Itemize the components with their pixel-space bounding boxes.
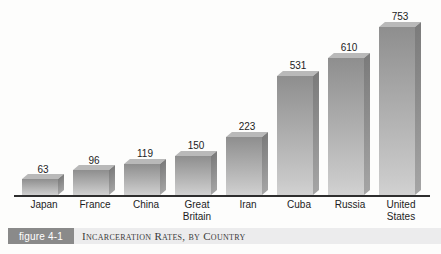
bar-value-china: 119 [124, 148, 166, 159]
figure-number-badge: figure 4-1 [8, 228, 74, 244]
bar-side-face-united-states [415, 22, 421, 195]
bar-russia [328, 58, 364, 195]
axis-label-japan: Japan [18, 199, 70, 211]
figure-caption-bar: Incarceration Rates, by Country [74, 228, 441, 244]
bar-side-face-cuba [313, 71, 319, 195]
bar-france [73, 170, 109, 195]
axis-label-cuba: Cuba [273, 199, 325, 211]
bar-front-face-united-states [379, 27, 415, 195]
axis-label-france: France [69, 199, 121, 211]
figure-caption-text: Incarceration Rates, by Country [82, 230, 246, 242]
figure-container: 63 96 119 1 [0, 0, 441, 254]
bar-value-cuba: 531 [277, 60, 319, 71]
bar-front-face-iran [226, 137, 262, 195]
axis-label-united-states: United States [375, 199, 427, 223]
bar-value-united-states: 753 [379, 11, 421, 22]
bar-front-face-cuba [277, 76, 313, 195]
bar-front-face-france [73, 170, 109, 195]
axis-label-great-britain: Great Britain [171, 199, 223, 223]
bar-front-face-china [124, 164, 160, 195]
bar-side-face-france [109, 165, 115, 195]
bar-great-britain [175, 156, 211, 195]
axis-label-great-britain-line2: Britain [183, 211, 211, 222]
axis-label-russia: Russia [324, 199, 376, 211]
bar-side-face-iran [262, 132, 268, 195]
bar-front-face-great-britain [175, 156, 211, 195]
bar-chart-plot-area: 63 96 119 1 [0, 0, 441, 222]
axis-label-united-states-line2: States [387, 211, 415, 222]
bar-side-face-russia [364, 53, 370, 195]
bar-side-face-great-britain [211, 151, 217, 195]
axis-label-great-britain-line1: Great [184, 199, 209, 210]
figure-caption-row: figure 4-1 Incarceration Rates, by Count… [0, 228, 441, 244]
bar-front-face-russia [328, 58, 364, 195]
bar-side-face-japan [58, 174, 64, 195]
bar-japan [22, 179, 58, 195]
bar-cuba [277, 76, 313, 195]
bar-side-face-china [160, 159, 166, 195]
bar-value-iran: 223 [226, 121, 268, 132]
bar-front-face-japan [22, 179, 58, 195]
bar-united-states [379, 27, 415, 195]
bar-value-russia: 610 [328, 42, 370, 53]
bar-value-great-britain: 150 [175, 140, 217, 151]
bar-iran [226, 137, 262, 195]
axis-label-united-states-line1: United [387, 199, 416, 210]
axis-label-china: China [120, 199, 172, 211]
baseline-axis [14, 195, 430, 197]
bar-china [124, 164, 160, 195]
axis-label-iran: Iran [222, 199, 274, 211]
